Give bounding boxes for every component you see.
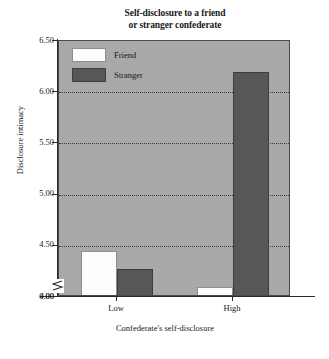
legend: Friend Stranger: [72, 48, 182, 88]
y-tick-mark: [52, 142, 57, 143]
legend-label-friend: Friend: [114, 49, 136, 61]
legend-swatch-stranger: [72, 68, 106, 82]
bar-low-friend: [81, 251, 117, 295]
x-tick-label-low: Low: [86, 303, 146, 313]
x-tick-label-high: High: [202, 303, 262, 313]
bar-chart: Self-disclosure to a friend or stranger …: [0, 0, 329, 359]
y-tick-label: 5.50: [22, 138, 54, 147]
x-tick-mark: [116, 296, 117, 301]
y-tick-mark: [52, 245, 57, 246]
y-tick-label: 5.00: [22, 189, 54, 198]
bar-high-stranger: [233, 72, 269, 295]
y-axis-line: [57, 39, 58, 297]
y-tick-label: 6.50: [22, 36, 54, 45]
legend-item-friend: Friend: [72, 48, 182, 64]
legend-label-stranger: Stranger: [114, 69, 143, 81]
y-axis-title: Disclosure intimacy: [15, 70, 25, 210]
y-tick-label: 6.00: [22, 87, 54, 96]
x-tick-mark: [232, 296, 233, 301]
axis-break-icon: [52, 279, 64, 293]
y-tick-label: 0.00: [22, 292, 54, 301]
bar-high-friend: [197, 287, 233, 295]
legend-item-stranger: Stranger: [72, 68, 182, 84]
chart-title-line-2: or stranger confederate: [55, 20, 295, 32]
y-tick-label: 4.50: [22, 240, 54, 249]
y-tick-mark: [52, 194, 57, 195]
chart-title-line-1: Self-disclosure to a friend: [55, 8, 295, 20]
y-tick-mark: [52, 40, 57, 41]
chart-title: Self-disclosure to a friend or stranger …: [55, 8, 295, 31]
x-axis-title: Confederate's self-disclosure: [40, 323, 290, 333]
bar-low-stranger: [117, 269, 153, 295]
x-axis-line: [40, 296, 315, 297]
y-tick-mark: [52, 91, 57, 92]
legend-swatch-friend: [72, 48, 106, 62]
